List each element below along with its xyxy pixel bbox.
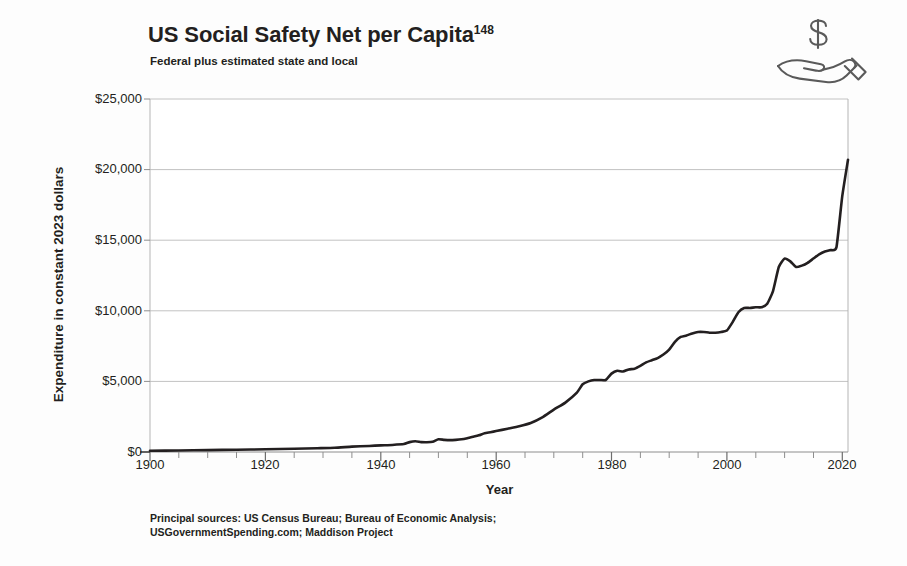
y-tick-label-20000: $20,000 <box>58 161 142 176</box>
x-tick-label-2020: 2020 <box>807 457 877 472</box>
x-tick-label-1900: 1900 <box>115 457 185 472</box>
y-axis-title: Expenditure in constant 2023 dollars <box>51 105 66 465</box>
x-tick-label-1960: 1960 <box>461 457 531 472</box>
plot-background <box>150 99 848 452</box>
x-axis-title: Year <box>150 482 849 497</box>
y-tick-label-10000: $10,000 <box>58 303 142 318</box>
x-tick-label-1980: 1980 <box>577 457 647 472</box>
chart-canvas: US Social Safety Net per Capita148 Feder… <box>0 0 907 566</box>
source-note: Principal sources: US Census Bureau; Bur… <box>150 511 496 539</box>
source-note-line-2: USGovernmentSpending.com; Maddison Proje… <box>150 525 496 539</box>
y-tick-label-5000: $5,000 <box>58 373 142 388</box>
source-note-line-1: Principal sources: US Census Bureau; Bur… <box>150 511 496 525</box>
y-tick-label-25000: $25,000 <box>58 91 142 106</box>
x-tick-label-1940: 1940 <box>346 457 416 472</box>
y-tick-label-15000: $15,000 <box>58 232 142 247</box>
x-tick-label-2000: 2000 <box>692 457 762 472</box>
y-axis-tick-labels: $25,000 $20,000 $15,000 $10,000 $5,000 $… <box>56 0 142 566</box>
x-tick-label-1920: 1920 <box>230 457 300 472</box>
